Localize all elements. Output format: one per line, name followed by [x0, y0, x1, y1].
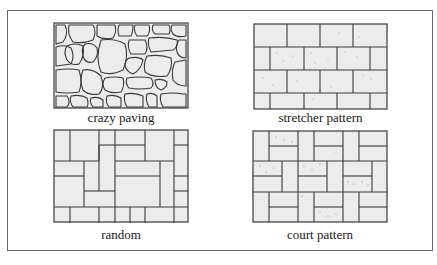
panel-court-pattern: [252, 130, 388, 223]
panel-random: [53, 129, 189, 223]
label-court-pattern: court pattern: [252, 227, 388, 243]
label-stretcher-pattern: stretcher pattern: [253, 110, 388, 126]
label-random: random: [53, 227, 189, 243]
court-pattern-illustration: [252, 130, 388, 223]
crazy-paving-illustration: [53, 22, 189, 109]
label-crazy-paving: crazy paving: [53, 110, 189, 126]
random-pattern-illustration: [53, 129, 189, 223]
stretcher-pattern-illustration: [253, 23, 388, 110]
panel-crazy-paving: [53, 22, 189, 109]
panel-stretcher-pattern: [253, 23, 388, 110]
